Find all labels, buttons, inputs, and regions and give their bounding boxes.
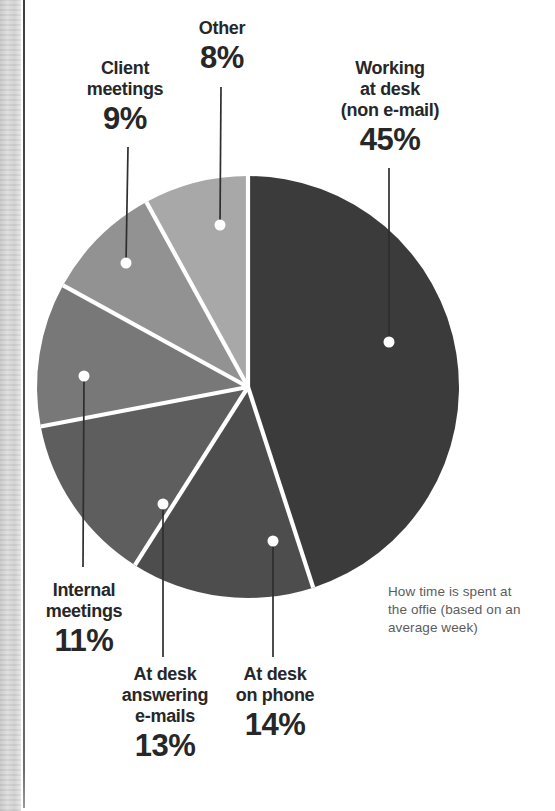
leader-line-internal-meetings bbox=[83, 376, 84, 567]
slice-percentage-internal-meetings: 11% bbox=[46, 625, 123, 657]
callout-internal-meetings: Internal meetings 11% bbox=[46, 580, 123, 656]
leader-line-other bbox=[220, 87, 221, 225]
slice-label-internal-meetings: Internal meetings bbox=[46, 580, 123, 622]
slice-label-at-desk-answering-emails: At desk answering e-mails bbox=[122, 664, 208, 727]
slice-percentage-client-meetings: 9% bbox=[87, 103, 164, 135]
slice-label-client-meetings: Client meetings bbox=[87, 58, 164, 100]
slice-percentage-other: 8% bbox=[199, 42, 246, 74]
leader-dot-working-at-desk bbox=[384, 337, 395, 348]
slice-percentage-at-desk-answering-emails: 13% bbox=[122, 730, 208, 762]
leader-dot-at-desk-on-phone bbox=[268, 536, 279, 547]
callout-at-desk-answering-emails: At desk answering e-mails 13% bbox=[122, 664, 208, 761]
slice-label-other: Other bbox=[199, 18, 246, 39]
callout-client-meetings: Client meetings 9% bbox=[87, 58, 164, 134]
slice-label-at-desk-on-phone: At desk on phone bbox=[236, 664, 315, 706]
slice-label-working-at-desk: Working at desk (non e-mail) bbox=[341, 58, 439, 121]
callout-working-at-desk: Working at desk (non e-mail) 45% bbox=[341, 58, 439, 155]
callout-at-desk-on-phone: At desk on phone 14% bbox=[236, 664, 315, 740]
slice-percentage-at-desk-on-phone: 14% bbox=[236, 709, 315, 741]
leader-dot-other bbox=[215, 220, 226, 231]
slice-percentage-working-at-desk: 45% bbox=[341, 124, 439, 156]
chart-caption: How time is spent at the offie (based on… bbox=[388, 583, 553, 638]
callout-other: Other 8% bbox=[199, 18, 246, 73]
leader-dot-client-meetings bbox=[121, 258, 132, 269]
leader-dot-internal-meetings bbox=[79, 371, 90, 382]
leader-dot-at-desk-answering-emails bbox=[158, 499, 169, 510]
